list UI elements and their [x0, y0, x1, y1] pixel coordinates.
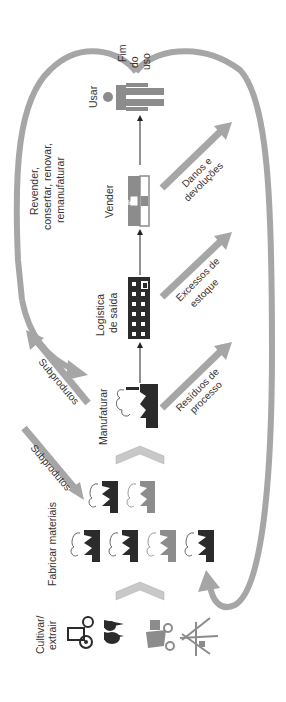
factory-icon	[127, 481, 155, 513]
label-fabricar: Fabricar materiais	[46, 502, 58, 586]
person-icon	[103, 83, 164, 111]
mining-truck-icon	[146, 620, 174, 650]
store-dollar-icon: $	[126, 199, 137, 205]
circular-supply-chain-diagram: Fim do uso Usar Vender Logística de saíd…	[0, 0, 286, 702]
factory-icon	[147, 530, 176, 562]
factory-icon	[116, 384, 158, 428]
loop-arrow-head-icon	[198, 570, 220, 592]
chevron-up-icon	[116, 582, 164, 600]
factory-icon	[89, 481, 118, 513]
label-subprodutos-2: Subprodutos	[28, 442, 73, 493]
tractor-icon	[68, 617, 93, 648]
label-logistica-1: Logística	[94, 294, 106, 336]
warehouse-building-icon	[128, 277, 150, 339]
label-usar: Usar	[87, 85, 99, 108]
chevron-up-icon	[116, 446, 164, 464]
label-fim-do-uso-2: do	[128, 56, 140, 68]
label-revender-3: remanufaturar	[54, 157, 66, 223]
factory-icon	[185, 530, 214, 562]
subprodutos-arrow-1	[26, 330, 88, 403]
label-cultivar-1: Cultivar/	[34, 615, 46, 654]
label-cultivar-2: extrair	[46, 620, 58, 650]
label-revender-1: Revender,	[28, 167, 40, 215]
label-logistica-2: de saída	[107, 293, 119, 333]
trees-icon	[104, 620, 124, 644]
label-fim-do-uso: Fim	[116, 44, 128, 62]
factory-icon	[109, 530, 138, 562]
outer-return-loop-right	[136, 51, 272, 607]
label-vender: Vender	[103, 184, 115, 218]
label-revender-2: consertar, renovar,	[41, 143, 53, 230]
label-fim-do-uso-3: uso	[140, 53, 152, 70]
label-manufaturar: Manufaturar	[97, 388, 109, 445]
oil-derrick-icon	[180, 618, 218, 656]
factory-icon	[71, 530, 100, 562]
